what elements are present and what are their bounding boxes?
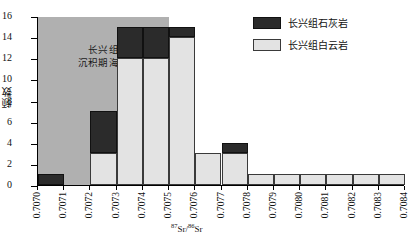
histogram-bar — [353, 174, 379, 185]
y-axis-tick-label: 2 — [0, 158, 12, 169]
chart-figure: 频数 1614121086420 长兴组 沉积期海水 0.70700.70710… — [0, 0, 418, 246]
bar-segment-dolomite — [90, 153, 116, 185]
x-axis-label-mid: Sr/ — [178, 224, 189, 234]
bar-segment-limestone — [169, 27, 195, 38]
histogram-bar — [326, 174, 352, 185]
bar-segment-dolomite — [353, 174, 379, 185]
histogram-bar — [248, 174, 274, 185]
y-axis-tick-label: 14 — [0, 31, 12, 42]
x-axis-tick-mark — [325, 186, 326, 190]
x-axis-tick-label: 0.7070 — [32, 192, 42, 218]
legend-label: 长兴组白云岩 — [288, 37, 348, 52]
bar-segment-limestone — [143, 27, 169, 59]
y-axis-tick-label: 8 — [0, 95, 12, 106]
histogram-bar — [379, 174, 405, 185]
x-axis-tick-label: 0.7074 — [137, 192, 147, 218]
histogram-bar — [274, 174, 300, 185]
x-axis-tick-mark — [273, 186, 274, 190]
x-axis-label: 87Sr/86Sr — [171, 222, 203, 234]
histogram-bar — [222, 143, 248, 185]
x-axis-label-end: Sr — [195, 224, 203, 234]
bar-segment-limestone — [90, 111, 116, 153]
x-axis-tick-label: 0.7077 — [216, 192, 226, 218]
x-axis-tick-label: 0.7084 — [399, 192, 409, 218]
histogram-bar — [169, 27, 195, 185]
bar-segment-dolomite — [379, 174, 405, 185]
x-axis-tick-label: 0.7078 — [242, 192, 252, 218]
legend-swatch — [253, 17, 281, 29]
bar-segment-dolomite — [169, 37, 195, 185]
x-axis-tick-label: 0.7075 — [163, 192, 173, 218]
x-axis-tick-mark — [89, 186, 90, 190]
bar-segment-limestone — [222, 143, 248, 154]
histogram-bar — [143, 27, 169, 185]
x-axis-tick-mark — [404, 186, 405, 190]
bar-segment-dolomite — [222, 153, 248, 185]
x-axis-tick-label: 0.7072 — [84, 192, 94, 218]
x-axis-tick-label: 0.7081 — [320, 192, 330, 218]
y-axis-tick-label: 0 — [0, 179, 12, 190]
x-axis-tick-label: 0.7080 — [294, 192, 304, 218]
bar-segment-dolomite — [274, 174, 300, 185]
bar-segment-dolomite — [143, 58, 169, 185]
y-axis-tick-label: 4 — [0, 137, 12, 148]
x-axis-tick-label: 0.7083 — [373, 192, 383, 218]
y-axis-tick-label: 12 — [0, 52, 12, 63]
x-axis-tick-mark — [247, 186, 248, 190]
bar-segment-dolomite — [195, 153, 221, 185]
x-axis-tick-mark — [63, 186, 64, 190]
bar-segment-dolomite — [248, 174, 274, 185]
x-axis-tick-mark — [299, 186, 300, 190]
x-axis-tick-mark — [168, 186, 169, 190]
legend-label: 长兴组石灰岩 — [288, 15, 348, 30]
x-axis-tick-mark — [352, 186, 353, 190]
y-axis-tick-label: 10 — [0, 73, 12, 84]
bar-segment-limestone — [38, 174, 64, 185]
x-axis-tick-mark — [378, 186, 379, 190]
bar-segment-dolomite — [300, 174, 326, 185]
y-axis-tick-label: 6 — [0, 116, 12, 127]
y-axis-tick-label: 16 — [0, 10, 12, 21]
legend-item: 长兴组白云岩 — [253, 36, 408, 53]
histogram-bar — [117, 27, 143, 185]
x-axis-tick-label: 0.7082 — [347, 192, 357, 218]
bar-segment-dolomite — [326, 174, 352, 185]
x-axis-tick-mark — [194, 186, 195, 190]
legend-item: 长兴组石灰岩 — [253, 14, 408, 31]
histogram-bar — [38, 174, 64, 185]
x-axis-tick-label: 0.7071 — [58, 192, 68, 218]
histogram-bar — [300, 174, 326, 185]
x-axis-tick-mark — [116, 186, 117, 190]
histogram-bar — [195, 153, 221, 185]
x-axis-tick-mark — [37, 186, 38, 190]
x-axis-tick-label: 0.7073 — [111, 192, 121, 218]
x-axis-tick-mark — [221, 186, 222, 190]
x-axis-tick-label: 0.7076 — [189, 192, 199, 218]
x-axis-tick-label: 0.7079 — [268, 192, 278, 218]
bar-segment-limestone — [117, 27, 143, 59]
bar-segment-dolomite — [117, 58, 143, 185]
legend-swatch — [253, 39, 281, 51]
legend: 长兴组石灰岩长兴组白云岩 — [253, 14, 408, 64]
histogram-bar — [90, 111, 116, 185]
x-axis-tick-mark — [142, 186, 143, 190]
